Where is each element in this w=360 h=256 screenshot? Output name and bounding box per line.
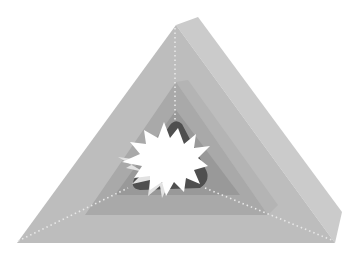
pyramid-svg: [0, 0, 360, 256]
pyramid-illustration: Grey 3D pyramid with nested inner layers…: [0, 0, 360, 256]
